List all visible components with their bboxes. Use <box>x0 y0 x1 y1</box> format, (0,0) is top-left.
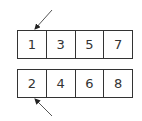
top-arrow-icon <box>35 10 52 29</box>
cell: 3 <box>47 31 76 58</box>
bottom-row: 2 4 6 8 <box>17 69 133 98</box>
cell: 7 <box>104 31 132 58</box>
cell: 6 <box>76 70 105 97</box>
cell: 8 <box>104 70 132 97</box>
bottom-arrow-icon <box>35 99 52 116</box>
cell: 4 <box>47 70 76 97</box>
cell: 1 <box>18 31 47 58</box>
cell: 5 <box>76 31 105 58</box>
arrows-layer <box>0 0 142 121</box>
cell: 2 <box>18 70 47 97</box>
top-row: 1 3 5 7 <box>17 30 133 59</box>
